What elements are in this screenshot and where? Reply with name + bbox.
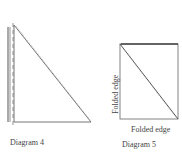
diagram-4-caption: Diagram 4 bbox=[10, 138, 44, 147]
diagram-5-figure bbox=[120, 44, 178, 119]
diagram-5-caption: Diagram 5 bbox=[122, 140, 156, 149]
diagram-4-figure bbox=[8, 23, 91, 125]
diagram-5-bottom-edge-label: Folded edge bbox=[131, 125, 170, 134]
diagram-5-left-edge-label: Folded edge bbox=[111, 75, 120, 114]
